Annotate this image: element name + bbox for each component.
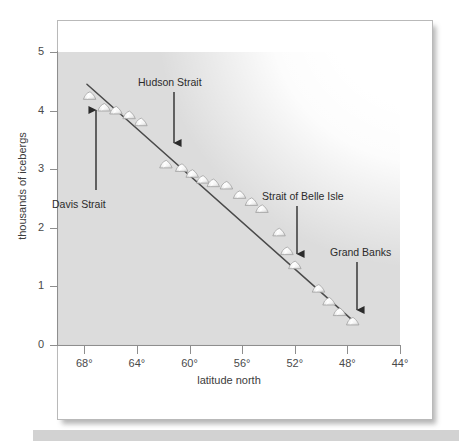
x-tick-label: 56°: [234, 357, 251, 369]
y-tick: [50, 52, 58, 53]
annotation-label-hudson-strait: Hudson Strait: [138, 76, 202, 88]
y-tick-label: 1: [24, 279, 44, 291]
x-tick: [137, 346, 138, 354]
x-tick-label: 64°: [129, 357, 146, 369]
x-tick-label: 48°: [339, 357, 356, 369]
x-tick: [190, 346, 191, 354]
x-axis-line: [57, 345, 401, 346]
y-tick: [50, 111, 58, 112]
x-tick-label: 68°: [76, 357, 93, 369]
x-tick-label: 60°: [181, 357, 198, 369]
x-tick: [347, 346, 348, 354]
x-tick: [84, 346, 85, 354]
annotation-label-davis-strait: Davis Strait: [52, 198, 106, 210]
y-tick-label: 0: [24, 338, 44, 350]
y-tick: [50, 345, 58, 346]
x-tick: [295, 346, 296, 354]
caption-bar: [33, 430, 459, 441]
y-tick: [50, 228, 58, 229]
y-axis-title: thousands of icebergs: [16, 106, 28, 266]
y-tick: [50, 286, 58, 287]
plot-corner-wash: [58, 52, 400, 345]
x-tick-label: 44°: [392, 357, 409, 369]
x-tick: [400, 346, 401, 354]
plot-texture: [58, 52, 400, 345]
annotation-label-grand-banks: Grand Banks: [330, 246, 391, 258]
x-tick: [242, 346, 243, 354]
y-tick: [50, 169, 58, 170]
x-axis-title: latitude north: [57, 374, 401, 386]
x-tick-label: 52°: [286, 357, 303, 369]
plot-area: [58, 52, 400, 345]
annotation-label-strait-of-belle-isle: Strait of Belle Isle: [262, 190, 344, 202]
y-tick-label: 5: [24, 45, 44, 57]
